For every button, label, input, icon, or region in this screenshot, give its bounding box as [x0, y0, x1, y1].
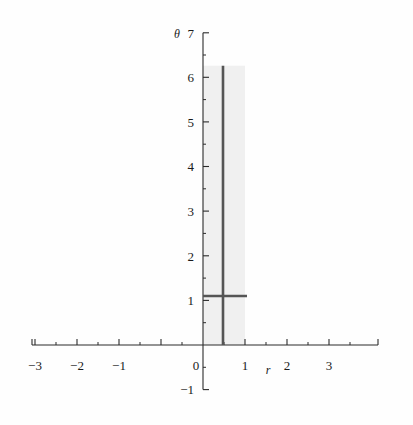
- y-tick-label: 1: [188, 293, 195, 308]
- y-tick-label: 2: [188, 249, 195, 264]
- plot-canvas: −3 −2 −1 0 1 2 3 −1 1 2 3 4 5 6 7 r θ: [0, 0, 413, 425]
- y-axis-title: θ: [174, 27, 180, 41]
- x-axis-title: r: [266, 363, 271, 377]
- x-tick-label: 2: [284, 358, 291, 373]
- y-tick-label: 6: [188, 70, 195, 85]
- y-tick-label: −1: [180, 382, 194, 397]
- y-tick-label: 7: [188, 26, 195, 41]
- polar-domain-plot-figure: −3 −2 −1 0 1 2 3 −1 1 2 3 4 5 6 7 r θ: [0, 0, 413, 425]
- y-tick-label: 3: [188, 204, 195, 219]
- y-tick-label: 4: [188, 159, 195, 174]
- x-tick-label: 1: [242, 358, 249, 373]
- x-tick-label: −1: [112, 358, 126, 373]
- x-tick-label: 0: [193, 358, 200, 373]
- x-tick-label: 3: [326, 358, 333, 373]
- y-tick-label: 5: [188, 115, 195, 130]
- x-tick-label: −3: [28, 358, 42, 373]
- x-tick-label: −2: [70, 358, 84, 373]
